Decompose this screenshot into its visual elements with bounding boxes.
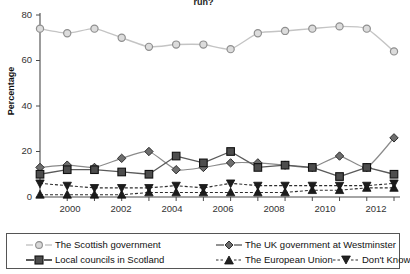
data-point	[390, 48, 397, 55]
data-point	[254, 164, 262, 172]
data-point	[226, 159, 234, 167]
data-point	[91, 166, 99, 174]
data-point	[173, 41, 180, 48]
data-point	[117, 154, 125, 162]
data-point	[172, 182, 180, 190]
legend-label: The UK government at Westminster	[245, 239, 396, 251]
data-point	[363, 25, 370, 32]
data-point	[227, 148, 235, 156]
data-point	[117, 185, 125, 193]
data-point	[390, 170, 398, 178]
data-point	[172, 152, 180, 160]
data-point	[145, 43, 152, 50]
data-point	[363, 164, 371, 172]
data-point	[91, 25, 98, 32]
legend-label: The European Union	[245, 254, 333, 266]
data-point	[227, 46, 234, 53]
data-point	[226, 180, 234, 188]
square-icon	[25, 254, 53, 266]
data-point	[336, 23, 343, 30]
diamond-icon	[215, 239, 243, 251]
data-point	[64, 30, 71, 37]
data-point	[199, 185, 207, 193]
data-point	[281, 27, 288, 34]
chart-legend: The Scottish government The UK governmen…	[6, 233, 400, 269]
data-point	[281, 161, 289, 169]
data-point	[63, 166, 71, 174]
triangle-down-icon	[332, 254, 360, 266]
data-point	[145, 147, 153, 155]
legend-label: The Scottish government	[55, 239, 161, 251]
data-point	[335, 152, 343, 160]
data-point	[200, 41, 207, 48]
data-point	[309, 164, 317, 172]
data-point	[36, 170, 44, 178]
data-point	[254, 30, 261, 37]
legend-label: Don't Know	[362, 254, 410, 266]
data-point	[172, 166, 180, 174]
data-point	[118, 34, 125, 41]
circle-open-icon	[25, 239, 53, 251]
data-point	[336, 173, 344, 181]
data-point	[309, 25, 316, 32]
data-point	[118, 168, 126, 176]
triangle-up-icon	[215, 254, 243, 266]
data-point	[200, 159, 208, 167]
data-point	[36, 25, 43, 32]
legend-label: Local councils in Scotland	[55, 254, 164, 266]
data-point	[145, 170, 153, 178]
